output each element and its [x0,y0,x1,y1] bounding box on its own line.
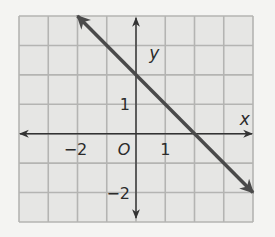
y-tick-label: −2 [106,184,130,203]
x-axis-label: x [239,109,251,129]
origin-label: O [118,140,131,159]
x-tick-label: 1 [160,140,170,159]
y-tick-label: 1 [120,95,130,114]
x-tick-label: −2 [64,140,88,159]
y-axis-label: y [148,43,160,63]
coordinate-plane: x y O −21 1−2 [0,0,275,237]
